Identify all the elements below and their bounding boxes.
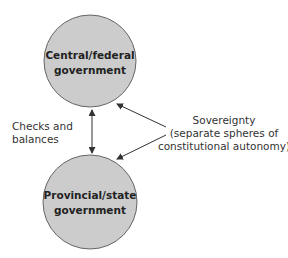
provincial-government-node: Provincial/state government	[43, 155, 137, 249]
sovereignty-line2: (separate spheres of	[170, 127, 279, 139]
central-government-node: Central/federal government	[44, 15, 136, 107]
checks-balances-label: Checks and balances	[12, 120, 73, 145]
central-label-line1: Central/federal	[45, 49, 134, 61]
provincial-label-line2: government	[54, 204, 126, 216]
federalism-diagram: Central/federal government Provincial/st…	[0, 0, 288, 258]
sovereignty-line1: Sovereignty	[193, 114, 256, 126]
sovereignty-arrow-central	[117, 104, 166, 127]
sovereignty-label: Sovereignty (separate spheres of constit…	[158, 114, 288, 152]
provincial-label-line1: Provincial/state	[44, 189, 137, 201]
central-label-line2: government	[54, 64, 126, 76]
sovereignty-line3: constitutional autonomy)	[158, 140, 288, 152]
checks-line1: Checks and	[12, 120, 73, 132]
checks-line2: balances	[12, 133, 59, 145]
